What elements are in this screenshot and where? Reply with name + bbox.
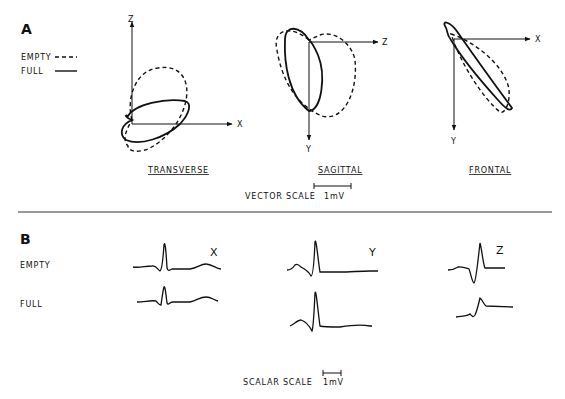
svg-text:Y: Y [305, 145, 311, 154]
transverse-loop-plot: Z X TRANSVERSE [122, 15, 243, 175]
sagittal-loop-plot: Z Y SAGITTAL [276, 29, 388, 175]
lead-y-traces [287, 241, 378, 331]
row-full-label: FULL [20, 300, 43, 309]
svg-text:X: X [535, 35, 541, 44]
vector-scale-unit: 1mV [324, 192, 345, 201]
lead-z-label: Z [496, 244, 504, 257]
scalar-scale-label: SCALAR SCALE [243, 378, 313, 387]
lead-y-label: Y [368, 246, 376, 259]
panel-a-label: A [21, 21, 32, 37]
svg-text:Z: Z [128, 15, 134, 24]
panel-b-label: B [20, 231, 31, 247]
svg-text:Y: Y [450, 137, 456, 146]
legend-full-label: FULL [21, 67, 44, 76]
vcg-figure: A EMPTY FULL Z X TRANSVERSE Z Y SAGITTAL… [0, 0, 565, 399]
sagittal-title: SAGITTAL [318, 166, 362, 175]
row-empty-label: EMPTY [20, 261, 51, 270]
lead-x-traces [133, 244, 221, 305]
vector-scale-label: VECTOR SCALE [245, 192, 316, 201]
svg-text:Z: Z [382, 38, 388, 47]
frontal-loop-plot: X Y FRONTAL [444, 23, 541, 175]
frontal-title: FRONTAL [469, 166, 511, 175]
svg-text:X: X [237, 120, 243, 129]
scalar-scale-unit: 1mV [323, 378, 344, 387]
transverse-title: TRANSVERSE [147, 166, 209, 175]
lead-x-label: X [210, 246, 218, 259]
legend-empty-label: EMPTY [21, 53, 52, 62]
